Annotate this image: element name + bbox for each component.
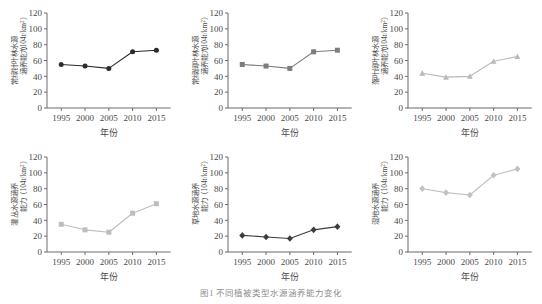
chart-f: 02040608010012019952000200520102015年份湿地水… [361, 144, 542, 288]
y-axis-unit: （104t/km2） [380, 157, 389, 198]
x-tick-label: 2005 [280, 257, 299, 267]
y-tick-label: 60 [214, 200, 224, 210]
x-tick-label: 1995 [52, 257, 70, 267]
data-point-marker [130, 211, 135, 216]
x-tick-label: 1995 [414, 113, 433, 123]
series-line [242, 50, 337, 68]
y-tick-label: 0 [37, 247, 42, 257]
x-tick-label: 2015 [147, 113, 165, 123]
y-tick-label: 20 [214, 87, 224, 97]
y-tick-label: 60 [214, 56, 224, 66]
y-tick-label: 120 [29, 8, 43, 18]
y-tick-label: 20 [33, 231, 42, 241]
x-tick-label: 2000 [437, 113, 456, 123]
chart-panel-a: 02040608010012019952000200520102015年份常绿针… [0, 0, 181, 144]
chart-panel-b: 02040608010012019952000200520102015年份常绿阔… [181, 0, 362, 144]
y-tick-label: 0 [218, 247, 223, 257]
y-tick-label: 120 [209, 152, 223, 162]
y-tick-label: 60 [33, 200, 42, 210]
y-tick-label: 60 [33, 56, 42, 66]
x-tick-label: 2015 [147, 257, 165, 267]
x-axis-title: 年份 [100, 271, 118, 282]
data-point-marker [59, 62, 64, 67]
data-point-marker [515, 166, 521, 173]
data-point-marker [311, 49, 316, 54]
y-tick-label: 80 [214, 40, 224, 50]
x-tick-label: 2005 [461, 113, 480, 123]
x-tick-label: 2010 [485, 257, 504, 267]
figure-multi-panel-line-charts: 02040608010012019952000200520102015年份常绿针… [0, 0, 542, 304]
data-point-marker [83, 64, 88, 69]
data-point-marker [287, 66, 292, 71]
x-axis-title: 年份 [280, 127, 298, 138]
data-point-marker [443, 189, 449, 196]
y-tick-label: 80 [33, 184, 42, 194]
x-tick-label: 2000 [76, 113, 94, 123]
x-axis-title: 年份 [100, 127, 118, 138]
x-axis-title: 年份 [280, 271, 298, 282]
y-tick-label: 40 [394, 72, 404, 82]
chart-panel-e: 02040608010012019952000200520102015年份草地水… [181, 144, 362, 288]
x-tick-label: 2015 [328, 257, 347, 267]
y-tick-label: 100 [390, 24, 404, 34]
y-tick-label: 40 [214, 216, 224, 226]
x-tick-label: 2015 [509, 257, 528, 267]
data-point-marker [420, 185, 426, 192]
y-tick-label: 80 [214, 184, 224, 194]
y-axis-title-line2: 能力 [380, 198, 389, 212]
y-tick-label: 60 [394, 200, 404, 210]
y-axis-unit: （104t/km2） [380, 13, 389, 54]
x-tick-label: 2000 [257, 257, 276, 267]
y-tick-label: 100 [29, 24, 43, 34]
y-tick-label: 120 [209, 8, 223, 18]
y-axis-title-line1: 灌丛水源涵养 [10, 182, 19, 225]
data-point-marker [130, 49, 135, 54]
chart-panel-f: 02040608010012019952000200520102015年份湿地水… [361, 144, 542, 288]
series-line [61, 204, 156, 233]
y-tick-label: 20 [394, 231, 404, 241]
data-point-marker [263, 234, 269, 241]
y-tick-label: 0 [37, 103, 42, 113]
panel-grid: 02040608010012019952000200520102015年份常绿针… [0, 0, 542, 288]
x-tick-label: 2010 [124, 113, 142, 123]
x-tick-label: 2005 [100, 257, 118, 267]
y-tick-label: 100 [390, 168, 404, 178]
y-tick-label: 40 [33, 216, 42, 226]
figure-caption: 图1 不同植被类型水源涵养能力变化 [0, 288, 542, 298]
y-axis-title-line2: 能力 [200, 198, 209, 212]
y-tick-label: 120 [390, 8, 404, 18]
y-tick-label: 120 [29, 152, 43, 162]
y-axis-title-line1: 常绿针叶林水源 [10, 35, 19, 85]
chart-b: 02040608010012019952000200520102015年份常绿阔… [181, 0, 362, 144]
x-axis-title: 年份 [461, 271, 479, 282]
x-tick-label: 2005 [461, 257, 480, 267]
data-point-marker [310, 227, 316, 234]
data-point-marker [106, 230, 111, 235]
series-line [61, 50, 156, 68]
y-tick-label: 0 [218, 103, 223, 113]
data-point-marker [154, 201, 159, 206]
data-point-marker [83, 227, 88, 232]
y-axis-title-line2: 能力 [19, 197, 28, 211]
x-tick-label: 1995 [52, 113, 70, 123]
y-tick-label: 40 [394, 216, 404, 226]
y-axis-unit: （104t/km2） [199, 157, 208, 198]
x-tick-label: 2005 [280, 113, 299, 123]
chart-a: 02040608010012019952000200520102015年份常绿针… [0, 0, 181, 144]
x-tick-label: 2010 [485, 113, 504, 123]
chart-panel-d: 02040608010012019952000200520102015年份灌丛水… [0, 144, 181, 288]
data-point-marker [286, 235, 292, 242]
y-axis-title-line1: 湿地水源涵养 [371, 183, 380, 226]
y-axis-title-line1: 常绿阔叶林水源 [191, 35, 200, 85]
data-point-marker [239, 232, 245, 239]
x-axis-title: 年份 [461, 127, 479, 138]
chart-c: 02040608010012019952000200520102015年份落叶阔… [361, 0, 542, 144]
data-point-marker [420, 70, 426, 76]
y-tick-label: 20 [33, 87, 42, 97]
x-tick-label: 2010 [304, 113, 323, 123]
data-point-marker [239, 62, 244, 67]
x-tick-label: 2010 [304, 257, 323, 267]
x-tick-label: 2000 [76, 257, 94, 267]
chart-d: 02040608010012019952000200520102015年份灌丛水… [0, 144, 181, 288]
data-point-marker [515, 53, 521, 59]
